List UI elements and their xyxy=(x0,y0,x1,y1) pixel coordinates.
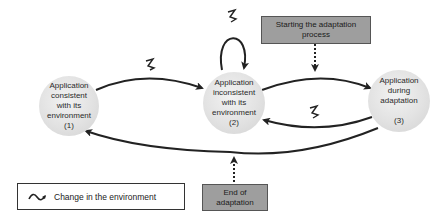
state-during-adaptation-label: Application during adaptation (3) xyxy=(379,76,418,126)
state-consistent-label: Application consistent with its environm… xyxy=(47,81,91,131)
legend: Change in the environment xyxy=(17,183,185,210)
end-adaptation-note: End of adaptation xyxy=(202,184,268,211)
squiggle-icon xyxy=(28,191,48,203)
edge-2-to-3 xyxy=(262,78,370,90)
edge-1-to-2 xyxy=(96,78,202,90)
legend-label: Change in the environment xyxy=(54,192,156,202)
state-during-adaptation: Application during adaptation (3) xyxy=(368,70,430,132)
edge-2-self-loop xyxy=(221,38,245,70)
state-inconsistent: Application inconsistent with its enviro… xyxy=(203,72,265,134)
state-consistent: Application consistent with its environm… xyxy=(39,76,99,136)
edge-3-to-2 xyxy=(264,117,372,127)
state-inconsistent-label: Application inconsistent with its enviro… xyxy=(212,78,256,128)
start-adaptation-note: Starting the adaptation process xyxy=(261,16,371,44)
